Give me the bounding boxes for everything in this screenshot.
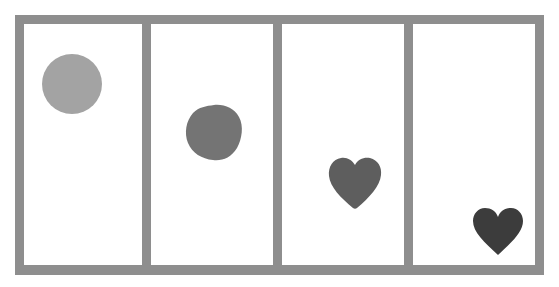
panel-2 <box>151 24 273 265</box>
heart-shape-icon <box>472 207 524 257</box>
rounded-heart-shape-icon <box>327 156 383 210</box>
panel-4 <box>413 24 535 265</box>
circle-fill <box>42 54 102 114</box>
panel-3 <box>282 24 404 265</box>
rounded-heart-fill <box>329 158 381 209</box>
panel-1 <box>24 24 142 265</box>
circle-shape-icon <box>41 53 103 115</box>
heart-fill <box>473 208 523 255</box>
blob-shape-icon <box>184 103 244 163</box>
blob-fill <box>186 105 242 160</box>
panel-sequence-frame <box>15 15 544 275</box>
